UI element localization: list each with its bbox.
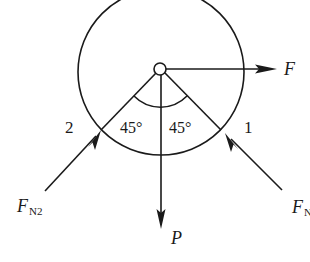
label-force-f: F [283,59,296,79]
force-fn1-arrowhead [225,133,238,152]
label-force-p: P [170,228,182,248]
label-support-1: 1 [244,118,253,137]
label-force-fn2-sub: N2 [29,205,42,217]
force-fn2-arrowhead [88,130,101,150]
force-fn1-line [231,139,282,190]
label-angle-left: 45° [120,119,142,136]
label-force-fn2-main: F [16,196,29,216]
label-support-2: 2 [65,118,74,137]
label-force-fn1-sub: N [304,206,310,218]
free-body-diagram: F 2 1 45° 45° P F N2 F N [0,0,310,262]
pin-joint [154,63,166,75]
force-fn2-line [45,136,96,191]
label-force-fn1-main: F [291,197,304,217]
label-angle-right: 45° [169,119,191,136]
